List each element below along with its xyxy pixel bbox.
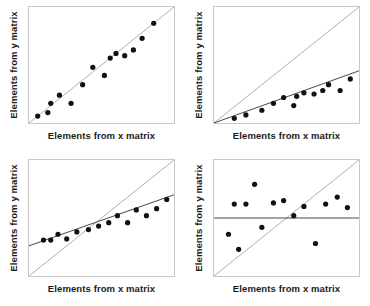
data-point: [323, 201, 328, 206]
identity-line-3: [29, 160, 174, 276]
data-point: [57, 93, 62, 98]
plot-canvas-3: [29, 160, 174, 276]
data-point: [35, 113, 40, 118]
y-axis-label-container-3: Elements from y matrix: [0, 159, 26, 277]
data-point: [281, 95, 286, 100]
data-point: [68, 101, 73, 106]
data-point: [259, 108, 264, 113]
plot-canvas-4: [214, 160, 359, 276]
chart-panel-3: Elements from y matrix Elements from x m…: [0, 153, 185, 306]
data-point: [281, 198, 286, 203]
data-point: [320, 88, 325, 93]
data-point: [102, 73, 107, 78]
data-point: [271, 101, 276, 106]
data-point: [48, 237, 53, 242]
y-axis-label-2: Elements from y matrix: [193, 11, 204, 118]
data-point: [45, 110, 50, 115]
plot-area-3: [28, 159, 175, 277]
data-point: [86, 227, 91, 232]
identity-line-group-3: [29, 160, 174, 276]
data-point: [232, 201, 237, 206]
data-point: [252, 182, 257, 187]
data-point: [313, 241, 318, 246]
data-point: [108, 55, 113, 60]
x-axis-label-2: Elements from x matrix: [213, 130, 360, 141]
scatter-plot-figure: Elements from y matrix Elements from x m…: [0, 0, 370, 306]
data-point: [151, 21, 156, 26]
plot-canvas-1: [29, 7, 174, 123]
data-point: [301, 204, 306, 209]
data-point: [335, 195, 340, 200]
regression-line-2: [214, 71, 359, 123]
data-point: [243, 201, 248, 206]
data-points-3: [41, 197, 169, 243]
data-point: [164, 197, 169, 202]
data-point: [291, 103, 296, 108]
identity-line-group-2: [214, 7, 359, 123]
y-axis-label-container-1: Elements from y matrix: [0, 6, 26, 124]
regression-line-group-2: [214, 71, 359, 123]
y-axis-label-container-4: Elements from y matrix: [185, 159, 211, 277]
data-point: [64, 236, 69, 241]
data-point: [348, 76, 353, 81]
chart-panel-2: Elements from y matrix Elements from x m…: [185, 0, 370, 153]
data-point: [301, 90, 306, 95]
data-point: [338, 88, 343, 93]
data-point: [259, 225, 264, 230]
plot-area-1: [28, 6, 175, 124]
plot-canvas-2: [214, 7, 359, 123]
x-axis-label-4: Elements from x matrix: [213, 283, 360, 294]
y-axis-label-4: Elements from y matrix: [193, 164, 204, 271]
data-point: [232, 116, 237, 121]
data-point: [122, 53, 127, 58]
data-point: [345, 205, 350, 210]
data-point: [74, 229, 79, 234]
data-point: [291, 213, 296, 218]
data-point: [326, 82, 331, 87]
data-point: [243, 112, 248, 117]
data-point: [90, 65, 95, 70]
data-point: [311, 91, 316, 96]
data-point: [80, 82, 85, 87]
data-point: [106, 220, 111, 225]
data-point: [271, 200, 276, 205]
data-point: [226, 232, 231, 237]
data-point: [140, 36, 145, 41]
data-point: [294, 94, 299, 99]
data-point: [48, 101, 53, 106]
chart-panel-4: Elements from y matrix Elements from x m…: [185, 153, 370, 306]
data-point: [154, 206, 159, 211]
data-point: [144, 213, 149, 218]
y-axis-label-container-2: Elements from y matrix: [185, 6, 211, 124]
data-point: [236, 247, 241, 252]
data-points-2: [232, 76, 353, 121]
data-point: [113, 51, 118, 56]
x-axis-label-1: Elements from x matrix: [28, 130, 175, 141]
chart-panel-1: Elements from y matrix Elements from x m…: [0, 0, 185, 153]
data-point: [55, 232, 60, 237]
y-axis-label-1: Elements from y matrix: [8, 11, 19, 118]
plot-area-4: [213, 159, 360, 277]
data-point: [131, 47, 136, 52]
data-point: [115, 213, 120, 218]
data-point: [134, 207, 139, 212]
x-axis-label-3: Elements from x matrix: [28, 283, 175, 294]
data-point: [96, 224, 101, 229]
y-axis-label-3: Elements from y matrix: [8, 164, 19, 271]
data-point: [41, 237, 46, 242]
plot-area-2: [213, 6, 360, 124]
data-point: [125, 220, 130, 225]
identity-line-2: [214, 7, 359, 123]
